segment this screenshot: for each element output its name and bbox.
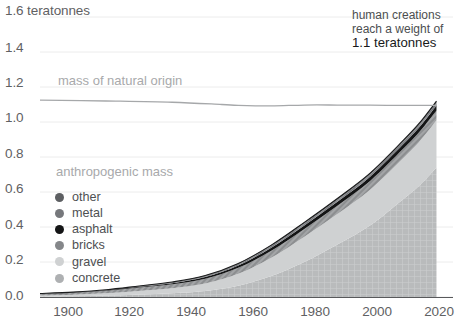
legend-swatch-icon [55, 257, 64, 266]
legend-item-label: other [72, 191, 101, 204]
x-tick-1960: 1960 [227, 305, 279, 319]
y-tick-0-8: 0.8 [5, 147, 23, 161]
x-tick-1980: 1980 [289, 305, 341, 319]
legend-swatch-icon [55, 225, 64, 234]
y-tick-0-4: 0.4 [5, 218, 23, 232]
legend-item-label: gravel [72, 256, 106, 269]
legend-item-asphalt[interactable]: asphalt [55, 221, 120, 237]
x-tick-2000: 2000 [351, 305, 403, 319]
annotation-line-1: human creations [352, 8, 451, 22]
legend-item-metal[interactable]: metal [55, 205, 120, 221]
natural-origin-series-label: mass of natural origin [58, 74, 182, 87]
anthropogenic-mass-legend-title: anthropogenic mass [56, 165, 173, 178]
annotation-line-3: 1.1 teratonnes [352, 36, 451, 50]
legend-item-gravel[interactable]: gravel [55, 254, 120, 270]
crossover-annotation: human creations reach a weight of 1.1 te… [352, 8, 451, 51]
legend-item-label: metal [72, 207, 103, 220]
y-tick-1-4: 1.4 [5, 41, 23, 55]
y-tick-0-2: 0.2 [5, 253, 23, 267]
legend-item-label: bricks [72, 239, 105, 252]
x-tick-2020: 2020 [413, 305, 459, 319]
legend-item-label: asphalt [72, 223, 113, 236]
legend-item-other[interactable]: other [55, 189, 120, 205]
natural-origin-line [40, 100, 436, 106]
legend-item-bricks[interactable]: bricks [55, 238, 120, 254]
legend-swatch-icon [55, 209, 64, 218]
y-tick-1-2: 1.2 [5, 76, 23, 90]
legend-item-concrete[interactable]: concrete [55, 270, 120, 286]
legend-swatch-icon [55, 241, 64, 250]
y-tick-1-6: 1.6 teratonnes [5, 4, 90, 18]
x-tick-1920: 1920 [103, 305, 155, 319]
legend-swatch-icon [55, 274, 64, 283]
legend-swatch-icon [55, 193, 64, 202]
x-tick-1940: 1940 [165, 305, 217, 319]
x-tick-1900: 1900 [42, 305, 94, 319]
y-tick-1-0: 1.0 [5, 111, 23, 125]
annotation-line-2: reach a weight of [352, 22, 451, 36]
y-tick-0-6: 0.6 [5, 182, 23, 196]
chart-legend: othermetalasphaltbricksgravelconcrete [55, 189, 120, 286]
legend-item-label: concrete [72, 272, 120, 285]
y-tick-0-0: 0.0 [5, 289, 23, 303]
